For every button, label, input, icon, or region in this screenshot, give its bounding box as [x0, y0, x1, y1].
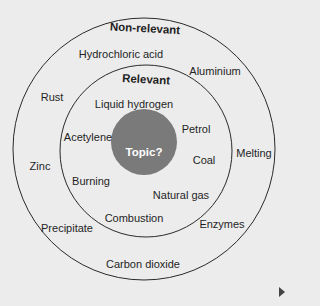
inner-item-acetylene: Acetylene	[64, 132, 112, 143]
outer-item-carbon-dioxide: Carbon dioxide	[106, 259, 180, 270]
outer-item-enzymes: Enzymes	[199, 219, 244, 230]
inner-heading: Relevant	[122, 73, 170, 87]
outer-item-melting: Melting	[236, 148, 271, 159]
inner-item-petrol: Petrol	[182, 124, 211, 135]
inner-item-liquid-hydrogen: Liquid hydrogen	[95, 99, 173, 110]
outer-item-zinc: Zinc	[30, 161, 51, 172]
outer-item-precipitate: Precipitate	[41, 223, 93, 234]
outer-item-hydrochloric-acid: Hydrochloric acid	[79, 49, 163, 60]
outer-item-aluminium: Aluminium	[189, 66, 240, 77]
inner-item-combustion: Combustion	[105, 213, 164, 224]
inner-item-coal: Coal	[193, 155, 216, 166]
next-arrow-icon[interactable]	[279, 287, 285, 297]
inner-item-natural-gas: Natural gas	[153, 190, 209, 201]
topic-circle	[111, 109, 177, 175]
outer-item-rust: Rust	[41, 92, 64, 103]
inner-item-burning: Burning	[72, 176, 110, 187]
topic-label: Topic?	[126, 147, 163, 159]
